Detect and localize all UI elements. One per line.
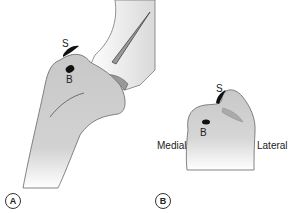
label-b-a: B — [66, 75, 73, 85]
panel-label-a: A — [5, 193, 21, 209]
marker-b-b — [202, 120, 210, 125]
label-s-a: S — [62, 39, 69, 49]
label-b-b: B — [200, 128, 207, 138]
label-s-b: S — [216, 84, 223, 94]
panel-label-b: B — [155, 193, 171, 209]
bone-b — [186, 90, 255, 170]
anatomy-diagram — [0, 0, 292, 213]
label-medial: Medial — [157, 141, 186, 151]
lower-bone-a — [23, 54, 125, 188]
label-lateral: Lateral — [257, 141, 288, 151]
